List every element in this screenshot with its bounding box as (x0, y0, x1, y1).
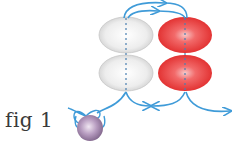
stop-bead (77, 115, 103, 141)
thread-bottom-return-head (152, 92, 185, 106)
thread-exit (186, 92, 230, 111)
thread-to-stop-bead (97, 92, 126, 113)
beading-diagram (0, 0, 237, 148)
thread-arc-inner (128, 11, 158, 18)
thread-bottom-return (126, 92, 150, 106)
thread-arc-inner-continue (158, 11, 185, 18)
